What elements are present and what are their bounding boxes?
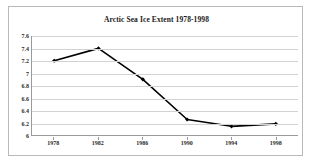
x-axis-tick-label: 1978 bbox=[33, 140, 73, 146]
gridline bbox=[32, 36, 298, 37]
x-axis-tickmark bbox=[53, 137, 54, 140]
x-axis-tickmark bbox=[98, 137, 99, 140]
y-axis-tick-label: 6.4 bbox=[11, 108, 29, 114]
y-axis-tick-label: 6 bbox=[11, 133, 29, 139]
data-point-marker bbox=[229, 124, 233, 128]
gridline bbox=[32, 111, 298, 112]
chart-title: Arctic Sea Ice Extent 1978-1998 bbox=[9, 15, 304, 24]
x-axis-tick-label: 1982 bbox=[78, 140, 118, 146]
x-axis-tickmark bbox=[231, 137, 232, 140]
y-axis-tick-label: 7.4 bbox=[11, 46, 29, 52]
y-axis-tick-labels: 7.67.47.276.86.66.46.26 bbox=[9, 36, 29, 136]
x-axis-tick-label: 1986 bbox=[122, 140, 162, 146]
y-axis-tick-label: 6.2 bbox=[11, 121, 29, 127]
x-axis-tick-label: 1998 bbox=[256, 140, 296, 146]
x-axis-tickmark bbox=[276, 137, 277, 140]
gridline bbox=[32, 86, 298, 87]
y-axis-tick-label: 6.8 bbox=[11, 83, 29, 89]
plot-area bbox=[31, 36, 298, 136]
gridline bbox=[32, 61, 298, 62]
y-axis-tick-label: 7 bbox=[11, 71, 29, 77]
x-axis-tick-labels: 197819821986199019941998 bbox=[31, 140, 298, 152]
y-axis-tick-label: 7.2 bbox=[11, 58, 29, 64]
y-axis-tick-label: 6.6 bbox=[11, 96, 29, 102]
gridline bbox=[32, 74, 298, 75]
chart-figure: Arctic Sea Ice Extent 1978-1998 7.67.47.… bbox=[8, 6, 303, 156]
x-axis-tickmark bbox=[142, 137, 143, 140]
y-axis-tick-label: 7.6 bbox=[11, 33, 29, 39]
gridline bbox=[32, 99, 298, 100]
x-axis-tick-label: 1990 bbox=[167, 140, 207, 146]
gridline bbox=[32, 124, 298, 125]
x-axis-tickmark bbox=[187, 137, 188, 140]
x-axis-tick-label: 1994 bbox=[211, 140, 251, 146]
gridline bbox=[32, 49, 298, 50]
